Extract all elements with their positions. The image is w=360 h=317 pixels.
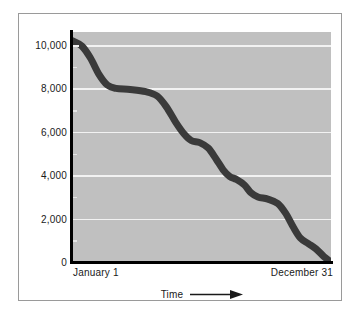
y-axis-tick-label: 8,000	[21, 83, 67, 94]
y-axis-minor-tick	[73, 110, 77, 112]
y-axis-minor-tick	[73, 197, 77, 199]
y-axis-tick-label: 4,000	[21, 170, 67, 181]
y-axis-major-tick	[73, 45, 79, 47]
arrow-right-icon	[190, 289, 244, 300]
y-axis-tick-label: 2,000	[21, 213, 67, 224]
x-axis-label-start: January 1	[73, 267, 119, 278]
time-annotation-label: Time	[161, 289, 184, 300]
y-axis-tick-labels: 02,0004,0006,0008,00010,000	[19, 32, 67, 262]
y-axis-tick-label: 6,000	[21, 126, 67, 137]
chart-figure: 02,0004,0006,0008,00010,000 January 1 De…	[18, 13, 342, 301]
y-axis-minor-tick	[73, 154, 77, 156]
y-axis-minor-tick	[73, 67, 77, 69]
plot-area	[72, 32, 331, 262]
x-axis	[70, 261, 333, 264]
y-axis-tick-label: 10,000	[21, 40, 67, 51]
y-axis-major-tick	[73, 219, 79, 221]
y-axis-major-tick	[73, 88, 79, 90]
y-axis-minor-tick	[73, 240, 77, 242]
x-axis-tick-labels: January 1 December 31	[72, 267, 333, 281]
y-axis-major-tick	[73, 175, 79, 177]
y-axis	[70, 30, 73, 264]
y-axis-tick-label: 0	[21, 257, 67, 268]
series-curve	[72, 32, 331, 262]
time-axis-annotation: Time	[72, 286, 333, 302]
y-axis-major-tick	[73, 132, 79, 134]
x-axis-label-end: December 31	[271, 267, 333, 278]
